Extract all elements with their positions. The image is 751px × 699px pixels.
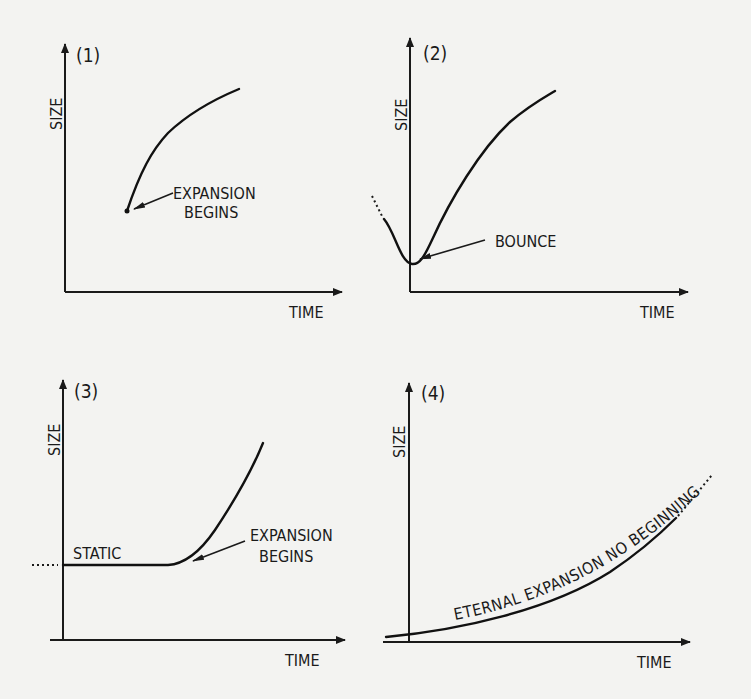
panel-1: (1) SIZE TIME EXPANSION BEGINS [47,44,342,322]
x-axis-label: TIME [284,651,320,670]
start-point [125,209,130,214]
annotation-expansion-begins-line2: BEGINS [184,203,238,222]
cosmology-size-vs-time-diagram: (1) SIZE TIME EXPANSION BEGINS (2) SIZE … [0,0,751,699]
panel-number: (4) [421,382,445,404]
panel-number: (3) [74,380,98,402]
x-axis-label: TIME [639,303,675,322]
panel-4: (4) SIZE TIME ETERNAL EXPANSION NO BEGIN… [383,382,712,672]
annotation-pointer [134,193,173,209]
panel-number: (2) [423,42,447,64]
panel-number: (1) [76,44,100,66]
x-axis-label: TIME [636,653,672,672]
panel-3: (3) SIZE TIME STATIC EXPANSION BEGINS [32,380,345,670]
y-axis-label: SIZE [390,426,409,458]
y-axis-label: SIZE [392,99,411,131]
annotation-bounce: BOUNCE [495,232,556,251]
annotation-eternal-expansion: ETERNAL EXPANSION NO BEGINNING [452,482,704,624]
annotation-expansion-begins: EXPANSION [250,526,333,545]
y-axis-label: SIZE [45,424,64,456]
annotation-pointer [193,541,245,561]
annotation-expansion-begins-line2: BEGINS [259,547,313,566]
panel-2: (2) SIZE TIME BOUNCE [372,38,688,322]
annotation-expansion-begins: EXPANSION [173,184,256,203]
x-axis-label: TIME [288,303,324,322]
annotation-static: STATIC [73,544,121,563]
prior-contraction-dotted [372,196,383,218]
y-axis-label: SIZE [47,98,66,130]
